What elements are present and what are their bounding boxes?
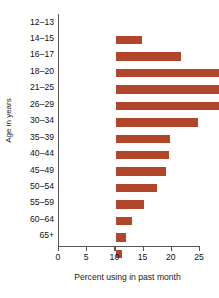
x-axis-tick-label: 10 xyxy=(104,252,124,262)
y-axis-tick-label: 50–54 xyxy=(12,181,54,191)
y-axis-tick-label: 40–44 xyxy=(12,148,54,158)
y-axis-tick-label: 12–13 xyxy=(12,17,54,27)
bar xyxy=(116,52,181,60)
bar xyxy=(116,69,219,77)
y-axis-tick-label: 16–17 xyxy=(12,49,54,59)
x-axis-title: Percent using in past month xyxy=(40,272,215,282)
x-axis-tick-label: 15 xyxy=(133,252,153,262)
plot-area xyxy=(58,16,208,244)
bar-row xyxy=(116,197,144,213)
x-axis-tick xyxy=(86,246,87,251)
y-axis-tick-label: 45–49 xyxy=(12,165,54,175)
x-axis-tick-label: 20 xyxy=(161,252,181,262)
bar-chart: Age in years 12–1314–1516–1718–2021–2526… xyxy=(0,0,219,298)
bar xyxy=(116,135,170,143)
bar-row xyxy=(116,114,198,130)
x-axis-tick xyxy=(143,246,144,251)
x-axis-line xyxy=(58,246,199,247)
bar-row xyxy=(116,65,219,81)
y-axis-tick-label: 30–34 xyxy=(12,115,54,125)
y-axis-tick-label: 18–20 xyxy=(12,66,54,76)
bar xyxy=(116,118,198,126)
bar-row xyxy=(116,147,169,163)
y-axis-tick-label: 60–64 xyxy=(12,214,54,224)
bar xyxy=(116,36,142,44)
bar-row xyxy=(116,213,132,229)
x-axis-tick xyxy=(114,246,115,251)
bar xyxy=(116,151,169,159)
bar xyxy=(116,200,144,208)
bar-row xyxy=(116,180,157,196)
x-axis-tick xyxy=(199,246,200,251)
bar-row xyxy=(116,131,170,147)
bar-row xyxy=(116,32,142,48)
bar xyxy=(116,102,219,110)
y-axis-tick-label: 65+ xyxy=(12,230,54,240)
y-axis-tick-label: 26–29 xyxy=(12,99,54,109)
y-axis-tick-label: 55–59 xyxy=(12,197,54,207)
x-axis-tick-label: 0 xyxy=(48,252,68,262)
x-axis-tick-label: 5 xyxy=(76,252,96,262)
y-axis-tick-label: 14–15 xyxy=(12,33,54,43)
bar xyxy=(116,217,132,225)
y-axis-tick-label: 35–39 xyxy=(12,132,54,142)
bar-row xyxy=(116,98,219,114)
x-axis-tick-label: 25 xyxy=(189,252,209,262)
bar xyxy=(116,167,166,175)
bar-row xyxy=(116,48,181,64)
bar-row xyxy=(116,164,166,180)
y-axis-tick-label: 21–25 xyxy=(12,82,54,92)
x-axis-tick xyxy=(58,246,59,251)
bar xyxy=(116,233,126,241)
bar xyxy=(116,85,219,93)
bar-row xyxy=(116,229,126,245)
bar-row xyxy=(116,81,219,97)
bar xyxy=(116,184,157,192)
x-axis-tick xyxy=(171,246,172,251)
